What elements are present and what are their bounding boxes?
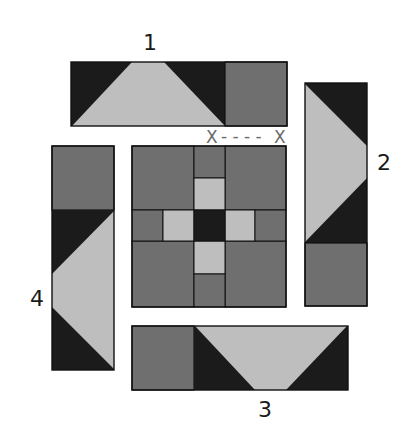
center-left-inner xyxy=(163,210,194,241)
strip-3-label: 3 xyxy=(258,397,272,422)
center-right-outer xyxy=(255,210,286,241)
center-bottom-inner xyxy=(194,241,225,274)
center-block xyxy=(132,146,286,307)
strip-2 xyxy=(305,83,367,306)
center-corner-bottom-right xyxy=(225,241,286,307)
strip-2-label: 2 xyxy=(377,150,391,175)
center-bottom-outer xyxy=(194,274,225,307)
marker-x-left: X xyxy=(206,127,218,147)
strip-1-square xyxy=(225,62,287,126)
quilt-block-diagram: 1 X - - - - X 2 4 xyxy=(0,0,413,424)
strip-3-square xyxy=(132,326,194,390)
strip-2-square xyxy=(305,243,367,306)
marker-dashes: - - - - xyxy=(221,126,262,146)
strip-1 xyxy=(71,62,287,126)
strip-3 xyxy=(132,326,348,390)
strip-4 xyxy=(52,146,114,370)
strip-4-square xyxy=(52,146,114,210)
strip-1-label: 1 xyxy=(143,30,157,55)
marker-x-right: X xyxy=(274,127,286,147)
center-top-outer xyxy=(194,146,225,178)
center-corner-top-left xyxy=(132,146,194,210)
seam-marker: X - - - - X xyxy=(206,126,286,147)
strip-4-label: 4 xyxy=(30,286,44,311)
center-top-inner xyxy=(194,178,225,210)
center-right-inner xyxy=(225,210,255,241)
center-corner-top-right xyxy=(225,146,286,210)
center-left-outer xyxy=(132,210,163,241)
center-square xyxy=(194,210,225,241)
center-corner-bottom-left xyxy=(132,241,194,307)
